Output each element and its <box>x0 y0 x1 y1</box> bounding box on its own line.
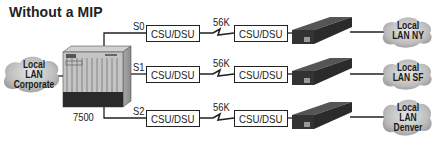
csu-label: CSU/DSU <box>239 113 283 125</box>
lan-label-denver: Local LAN Denver <box>389 103 426 133</box>
source-lan-line3: Corporate <box>14 80 55 90</box>
speed-label-s1: 56K <box>213 57 230 69</box>
port-label-s1: S1 <box>133 61 144 73</box>
speed-label-s0: 56K <box>213 16 230 28</box>
csu-label: CSU/DSU <box>151 69 195 81</box>
lan-sf-line2: LAN SF <box>389 73 426 83</box>
port-label-s2: S2 <box>133 105 144 117</box>
lan-denver-line3: Denver <box>389 123 426 133</box>
local-csu-dsu-s0: CSU/DSU <box>146 25 200 42</box>
lan-label-ny: Local LAN NY <box>389 21 426 41</box>
remote-csu-dsu-sf: CSU/DSU <box>234 66 288 83</box>
csu-label: CSU/DSU <box>239 28 283 40</box>
csu-label: CSU/DSU <box>239 69 283 81</box>
lan-ny-line2: LAN NY <box>389 31 426 41</box>
local-csu-dsu-s2: CSU/DSU <box>146 110 200 127</box>
router-model-label: 7500 <box>73 111 94 123</box>
remote-device-icon-ny <box>292 17 352 44</box>
lan-label-sf: Local LAN SF <box>389 63 426 83</box>
speed-label-s2: 56K <box>213 101 230 113</box>
remote-device-icon-sf <box>292 58 352 85</box>
remote-csu-dsu-denver: CSU/DSU <box>234 110 288 127</box>
port-label-s0: S0 <box>133 20 144 32</box>
router-icon-7500 <box>63 46 131 107</box>
source-lan-label: Local LAN Corporate <box>14 60 55 90</box>
csu-label: CSU/DSU <box>151 113 195 125</box>
csu-label: CSU/DSU <box>151 28 195 40</box>
remote-device-icon-denver <box>292 102 352 129</box>
remote-csu-dsu-ny: CSU/DSU <box>234 25 288 42</box>
local-csu-dsu-s1: CSU/DSU <box>146 66 200 83</box>
